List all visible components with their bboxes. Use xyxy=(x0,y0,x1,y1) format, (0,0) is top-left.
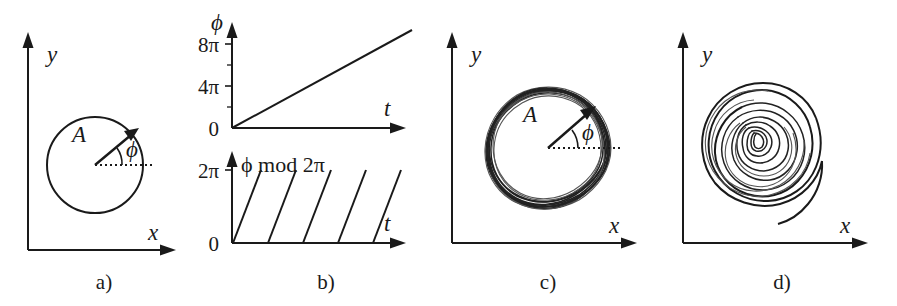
panel-c-y-axis-label: y xyxy=(469,42,482,67)
panel-b-bottom-ytick-2pi: 2π xyxy=(198,159,220,183)
panel-a: y x A ϕ a) xyxy=(0,0,200,306)
panel-c-y-axis xyxy=(447,32,458,243)
panel-b-top-ytick-4pi: 4π xyxy=(198,75,220,99)
panel-b-canvas: ϕ 8π 4π 0 t 2π 0 xyxy=(185,0,430,306)
panel-c-caption: c) xyxy=(540,270,556,294)
panel-b-top-y-axis-label: ϕ xyxy=(211,10,223,35)
panel-a-amplitude-label: A xyxy=(70,122,87,147)
panel-c-noisy-limit-cycle xyxy=(485,87,611,209)
panel-a-caption: a) xyxy=(96,270,112,294)
panel-b-bottom-ytick-0: 0 xyxy=(209,232,220,256)
panel-a-phase-arc xyxy=(117,148,122,165)
panel-b-top-ytick-0: 0 xyxy=(209,117,220,141)
panel-b-bottom-title: ϕ mod 2π xyxy=(241,152,325,177)
panel-b-top-ytick-8pi: 8π xyxy=(198,33,220,57)
panel-d-canvas: y x xyxy=(665,0,897,306)
panel-d-caption: d) xyxy=(773,270,791,294)
panel-b-top-x-axis-label: t xyxy=(384,96,391,121)
panel-d-chaotic-trajectory xyxy=(702,83,822,224)
panel-d-y-axis xyxy=(678,32,689,243)
panel-c-phase-arc xyxy=(572,130,578,148)
panel-c-canvas: y x xyxy=(435,0,650,306)
panel-b: ϕ 8π 4π 0 t 2π 0 xyxy=(185,0,430,306)
panel-c-amplitude-label: A xyxy=(521,102,538,127)
panel-a-canvas: y x A ϕ a) xyxy=(0,0,200,306)
panel-c: y x xyxy=(435,0,650,306)
panel-d-y-axis-label: y xyxy=(700,42,713,67)
panel-a-x-axis xyxy=(28,245,176,256)
panel-d: y x xyxy=(665,0,897,306)
figure-root: y x A ϕ a) xyxy=(0,0,897,306)
panel-a-y-axis xyxy=(23,32,34,250)
panel-c-x-axis xyxy=(452,238,637,249)
panel-c-phase-label: ϕ xyxy=(582,120,594,145)
panel-b-caption: b) xyxy=(317,270,335,294)
panel-a-phase-label: ϕ xyxy=(126,137,138,162)
panel-a-x-axis-label: x xyxy=(147,220,159,245)
panel-b-bottom-x-axis-label: t xyxy=(384,211,391,236)
panel-d-x-axis xyxy=(683,238,868,249)
panel-a-y-axis-label: y xyxy=(45,42,58,67)
panel-c-x-axis-label: x xyxy=(608,213,620,238)
panel-d-x-axis-label: x xyxy=(839,213,851,238)
